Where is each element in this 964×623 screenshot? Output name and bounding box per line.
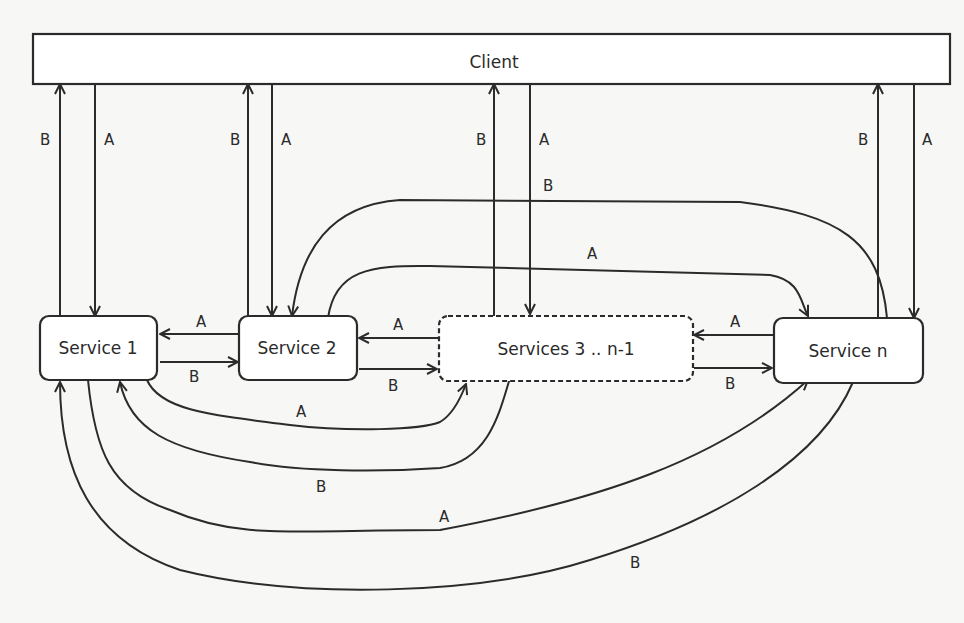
- s1-client-b-label: B: [40, 131, 50, 149]
- s3-s1-b-label: B: [316, 478, 326, 496]
- upper-arcs: B A: [292, 177, 887, 318]
- s3-to-s1-b-arc: [120, 378, 510, 470]
- sn-to-s1-b-arc: [60, 382, 853, 590]
- s2-s1-a-label: A: [196, 313, 207, 331]
- s2-client-a-label: A: [281, 131, 292, 149]
- s2-s3-b-label: B: [388, 377, 398, 395]
- service-1-node: Service 1: [40, 316, 157, 380]
- services-3-node: Services 3 .. n-1: [439, 316, 693, 381]
- s3-client-b-label: B: [476, 131, 486, 149]
- client-links: B A B A B A B A: [40, 84, 933, 320]
- sn-s3-a-label: A: [730, 313, 741, 331]
- s1-client-a-label: A: [104, 131, 115, 149]
- s2-to-sn-a-arc: [328, 266, 808, 318]
- client-label: Client: [469, 52, 519, 72]
- sn-client-b-label: B: [858, 131, 868, 149]
- services-3-label: Services 3 .. n-1: [497, 339, 634, 359]
- s3-sn-b-label: B: [725, 375, 735, 393]
- s3-client-a-label: A: [539, 131, 550, 149]
- s1-sn-a-label: A: [439, 508, 450, 526]
- sn-client-a-label: A: [922, 131, 933, 149]
- service-2-label: Service 2: [257, 338, 336, 358]
- s1-s2-b-label: B: [189, 368, 199, 386]
- s2-client-b-label: B: [230, 131, 240, 149]
- service-1-label: Service 1: [58, 338, 137, 358]
- service-2-node: Service 2: [239, 316, 357, 380]
- lower-arcs: A B A B: [60, 378, 853, 590]
- s1-to-s3-a-arc: [147, 380, 466, 429]
- s3-s2-a-label: A: [393, 316, 404, 334]
- client-node: Client: [33, 34, 950, 84]
- s2-sn-a-label: A: [587, 245, 598, 263]
- service-diagram: Client B A B A B A B A B A A B: [0, 0, 964, 623]
- s1-s3-a-label: A: [296, 403, 307, 421]
- service-n-node: Service n: [774, 318, 923, 383]
- sn-s1-b-label: B: [630, 554, 640, 572]
- service-n-label: Service n: [808, 341, 887, 361]
- sn-s2-b-label: B: [543, 177, 553, 195]
